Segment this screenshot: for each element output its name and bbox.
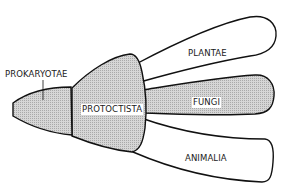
fungi-lobe — [143, 75, 274, 115]
protoctista-body — [72, 54, 146, 152]
animalia-lobe — [133, 118, 273, 182]
plantae-label: PLANTAE — [188, 49, 227, 58]
diagram-canvas — [0, 0, 289, 191]
fungi-label: FUNGI — [192, 97, 221, 108]
prokaryotae-label: PROKARYOTAE — [5, 70, 68, 79]
protoctista-label: PROTOCTISTA — [81, 104, 143, 115]
animalia-label: ANIMALIA — [185, 154, 227, 163]
five-kingdoms-diagram: PROKARYOTAE PROTOCTISTA PLANTAE FUNGI AN… — [0, 0, 289, 191]
prokaryotae-body — [13, 87, 72, 135]
